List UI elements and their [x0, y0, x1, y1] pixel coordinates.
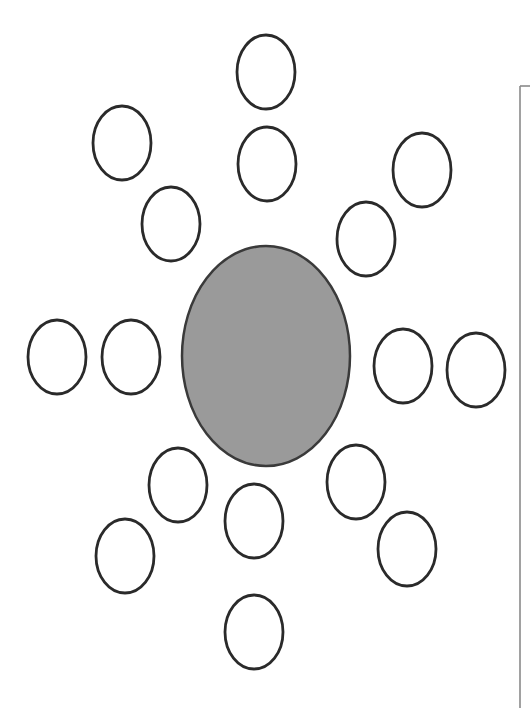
- satellite-ellipse: [93, 106, 151, 180]
- satellite-ellipse: [337, 202, 395, 276]
- satellite-ellipse: [393, 133, 451, 207]
- satellite-ellipse: [102, 320, 160, 394]
- satellite-top-left-outer: [93, 106, 151, 180]
- satellite-top-inner: [238, 127, 296, 201]
- frame-border: [520, 86, 530, 708]
- satellite-top-outer: [237, 35, 295, 109]
- radial-diagram: [0, 0, 530, 708]
- satellite-ellipse: [225, 595, 283, 669]
- satellite-ellipse: [96, 519, 154, 593]
- satellite-top-left-inner: [142, 187, 200, 261]
- satellite-ellipse: [225, 484, 283, 558]
- satellite-ellipse: [142, 187, 200, 261]
- diagram-canvas: [0, 0, 530, 708]
- satellite-left-outer: [28, 320, 86, 394]
- satellite-top-right-outer: [393, 133, 451, 207]
- satellite-bottom-right-outer: [378, 512, 436, 586]
- satellite-ellipse: [238, 127, 296, 201]
- satellite-ellipse: [447, 333, 505, 407]
- satellite-bottom-right-inner: [327, 445, 385, 519]
- satellite-ellipse: [237, 35, 295, 109]
- central-ellipse-shape: [182, 246, 350, 466]
- satellite-bottom-outer: [225, 595, 283, 669]
- satellite-top-right-inner: [337, 202, 395, 276]
- satellite-right-inner: [374, 329, 432, 403]
- satellite-bottom-left-inner: [149, 448, 207, 522]
- satellite-ellipse: [28, 320, 86, 394]
- satellite-ellipse: [378, 512, 436, 586]
- satellite-bottom-left-outer: [96, 519, 154, 593]
- satellite-ellipse: [327, 445, 385, 519]
- satellite-bottom-inner: [225, 484, 283, 558]
- satellite-left-inner: [102, 320, 160, 394]
- satellite-right-outer: [447, 333, 505, 407]
- central-ellipse: [182, 246, 350, 466]
- satellite-ellipse: [374, 329, 432, 403]
- satellite-ellipse: [149, 448, 207, 522]
